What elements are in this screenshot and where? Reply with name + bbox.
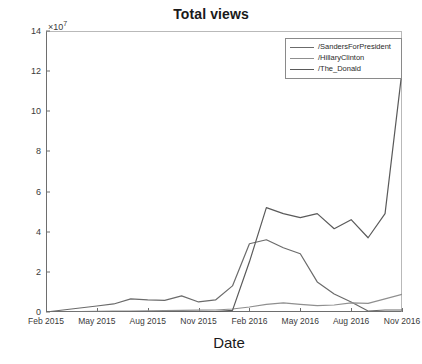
x-tick-label: Feb 2015	[28, 316, 64, 326]
legend-line-icon	[290, 58, 314, 59]
x-tick-mark	[402, 308, 403, 312]
y-axis-exponent-value: 7	[63, 20, 67, 27]
legend-label: /HillaryClinton	[318, 53, 364, 63]
x-axis-label: Date	[0, 334, 422, 351]
series-line	[46, 294, 402, 312]
y-tick-label: 6	[36, 187, 41, 197]
y-tick-label: 4	[36, 227, 41, 237]
legend-line-icon	[290, 69, 314, 70]
y-tick-label: 2	[36, 267, 41, 277]
y-tick-label: 14	[31, 26, 41, 36]
legend-item[interactable]: /SandersForPresident	[288, 42, 398, 52]
x-tick-label: Nov 2016	[384, 316, 420, 326]
legend-item[interactable]: /The_Donald	[288, 64, 398, 74]
y-tick-label: 12	[31, 66, 41, 76]
series-line	[46, 240, 402, 312]
x-tick-label: May 2015	[78, 316, 115, 326]
x-tick-label: May 2016	[282, 316, 319, 326]
legend-item[interactable]: /HillaryClinton	[288, 53, 398, 63]
legend: /SandersForPresident/HillaryClinton/The_…	[285, 38, 402, 79]
chart-screenshot: Total views ×107 02468101214 Feb 2015May…	[0, 0, 422, 364]
legend-line-icon	[290, 47, 314, 48]
legend-label: /SandersForPresident	[318, 42, 391, 52]
x-tick-label: Feb 2016	[231, 316, 267, 326]
x-tick-label: Aug 2016	[333, 316, 369, 326]
x-tick-label: Nov 2015	[180, 316, 216, 326]
y-tick-label: 8	[36, 146, 41, 156]
y-tick-label: 10	[31, 106, 41, 116]
legend-label: /The_Donald	[318, 64, 361, 74]
series-line	[46, 71, 402, 312]
x-tick-label: Aug 2015	[130, 316, 166, 326]
